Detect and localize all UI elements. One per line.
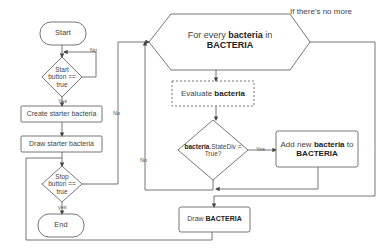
add-label: Add new bacteria to BACTERIA [276, 140, 358, 158]
divide-bold: bacteria [185, 143, 210, 150]
divide-no-label: No [140, 157, 147, 163]
stop-no-label: No [113, 110, 120, 116]
divide-post: .StateDiv = [209, 143, 241, 150]
draw-starter-label: Draw starter bacteria [21, 140, 102, 148]
stop-check-label: Stop button == true [42, 173, 82, 195]
divide-check-label: bacteria.StateDiv = True? [180, 143, 246, 158]
start-yes-label: Yes [58, 98, 67, 104]
create-label: Create starter bacteria [21, 110, 102, 118]
add-pre: Add new [281, 140, 314, 149]
draw-bacteria-label: Draw BACTERIA [179, 215, 250, 223]
stop-check-line2: button == [42, 180, 82, 187]
start-check-line3: true [42, 81, 82, 88]
loop-mid: in [263, 30, 273, 40]
end-label: End [38, 221, 84, 230]
divide-yes-label: Yes [256, 146, 265, 152]
evaluate-pre: Evaluate [181, 89, 214, 98]
draw-pre: Draw [187, 215, 205, 222]
loop-label: For every bacteria in BACTERIA [165, 30, 295, 51]
divide-line2: True? [205, 150, 222, 157]
loop-bold2: BACTERIA [207, 40, 254, 50]
loop-pre: For every [188, 30, 229, 40]
start-check-line1: Start [42, 66, 82, 73]
add-bold2: BACTERIA [296, 149, 337, 158]
add-mid: to [345, 140, 354, 149]
stop-check-line1: Stop [42, 173, 82, 180]
start-check-label: Start button == true [42, 66, 82, 88]
draw-bold: BACTERIA [206, 215, 242, 222]
loop-exit-label: If there's no more [290, 7, 352, 16]
add-bold1: bacteria [314, 140, 345, 149]
stop-check-line3: true [42, 188, 82, 195]
evaluate-bold: bacteria [214, 89, 245, 98]
start-check-line2: button == [42, 73, 82, 80]
stop-yes-label: yes [58, 204, 67, 210]
start-label: Start [40, 29, 86, 38]
loop-bold1: bacteria [228, 30, 263, 40]
start-no-label: No [90, 47, 97, 53]
evaluate-label: Evaluate bacteria [172, 89, 254, 98]
